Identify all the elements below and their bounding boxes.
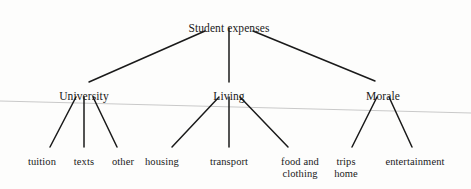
tree-edge <box>50 97 76 147</box>
tree-edges <box>50 28 412 147</box>
tree-node-branch: Morale <box>366 90 400 103</box>
tree-edge <box>240 97 288 147</box>
tree-edge <box>389 97 412 147</box>
tree-node-leaf: other <box>112 156 134 168</box>
tree-edge <box>253 31 375 81</box>
tree-node-leaf: texts <box>74 156 94 168</box>
tree-node-branch: Living <box>213 90 244 103</box>
tree-node-leaf: entertainment <box>385 156 444 168</box>
tree-node-root: Student expenses <box>188 22 269 35</box>
tree-node-leaf: transport <box>210 156 248 168</box>
tree-node-leaf: food and clothing <box>281 156 319 180</box>
tree-edge <box>352 97 377 147</box>
tree-node-leaf: housing <box>145 156 179 168</box>
tree-node-branch: University <box>59 90 109 103</box>
tree-edge <box>89 31 205 82</box>
tree-diagram: Student expensesUniversityLivingMoraletu… <box>0 0 471 189</box>
tree-edge <box>172 97 219 147</box>
tree-node-leaf: tuition <box>28 156 56 168</box>
tree-edge <box>93 97 117 147</box>
tree-node-leaf: trips home <box>334 156 358 180</box>
